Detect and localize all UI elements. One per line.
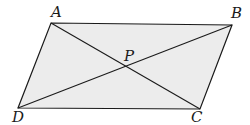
vertex-label-a: A: [51, 5, 62, 20]
intersection-label-p: P: [124, 49, 134, 64]
vertex-label-b: B: [231, 6, 242, 21]
vertex-label-c: C: [191, 110, 202, 125]
parallelogram-diagram: A B C D P: [0, 0, 250, 125]
vertex-label-d: D: [12, 110, 24, 125]
